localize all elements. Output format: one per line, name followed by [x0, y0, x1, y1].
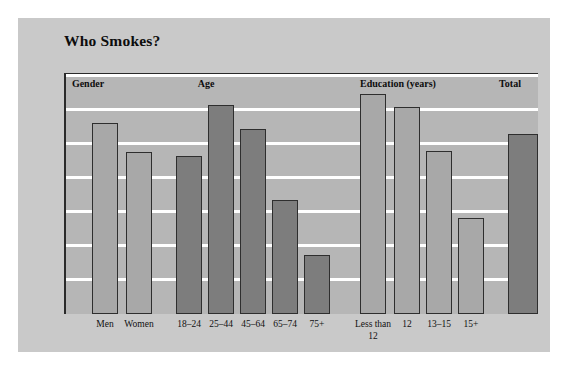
gridline — [64, 108, 538, 111]
gridline — [64, 142, 538, 145]
gridline — [64, 74, 538, 77]
bar — [176, 156, 202, 314]
x-axis-category-label: 15+ — [436, 318, 506, 330]
bar — [126, 152, 152, 314]
group-header: Age — [156, 78, 256, 89]
group-header: Gender — [38, 78, 138, 89]
bar — [304, 255, 330, 314]
bar — [508, 134, 538, 314]
bar — [92, 123, 118, 314]
bar — [426, 151, 452, 314]
group-header: Total — [460, 78, 560, 89]
chart-title: Who Smokes? — [64, 32, 161, 50]
bar — [240, 129, 266, 314]
bar — [360, 94, 386, 314]
bar — [394, 107, 420, 314]
chart-figure: Who Smokes? 0%5%10%15%20%25%30%35% Gende… — [18, 18, 550, 352]
bar — [272, 200, 298, 314]
bar — [208, 105, 234, 314]
group-header: Education (years) — [348, 78, 448, 89]
bar — [458, 218, 484, 314]
plot-area — [64, 73, 538, 314]
y-axis-line — [64, 73, 66, 314]
